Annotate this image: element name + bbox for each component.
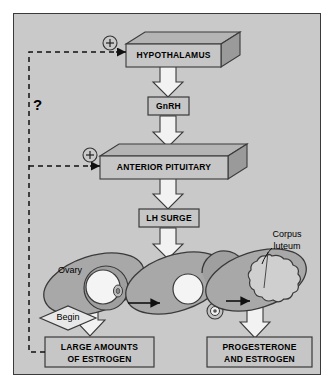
begin-label: Begin bbox=[40, 312, 96, 322]
gnrh-label: GnRH bbox=[148, 101, 189, 111]
ovary-label: Ovary bbox=[58, 265, 82, 275]
block-arrow-pituitary-to-lh bbox=[153, 178, 183, 209]
corpus-luteum-label-line2: luteum bbox=[258, 241, 316, 251]
progesterone-label-line1: PROGESTERONE bbox=[207, 342, 312, 352]
plus-circle-pituitary bbox=[83, 148, 97, 162]
question-mark-annotation: ? bbox=[33, 96, 42, 113]
plus-circle-hypothalamus bbox=[103, 36, 117, 50]
estrogen-label-line1: LARGE AMOUNTS bbox=[45, 342, 154, 352]
block-arrow-gnrh-to-pituitary bbox=[153, 116, 183, 147]
diagram-canvas: HYPOTHALAMUS GnRH ANTERIOR PITUITARY LH … bbox=[0, 0, 335, 389]
lh-surge-label: LH SURGE bbox=[139, 213, 199, 223]
estrogen-label-line2: OF ESTROGEN bbox=[45, 354, 154, 364]
corpus-luteum-label-line1: Corpus bbox=[258, 229, 316, 239]
anterior-pituitary-label: ANTERIOR PITUITARY bbox=[100, 162, 228, 172]
block-arrow-hypothalamus-to-gnrh bbox=[153, 66, 183, 97]
hypothalamus-label: HYPOTHALAMUS bbox=[126, 50, 221, 60]
progesterone-label-line2: AND ESTROGEN bbox=[207, 354, 312, 364]
